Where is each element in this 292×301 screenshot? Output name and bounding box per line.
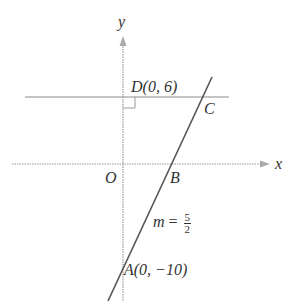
right-angle-marker	[123, 97, 135, 108]
y-axis-label: y	[118, 14, 125, 30]
point-d-text: D(0, 6)	[131, 78, 177, 95]
coordinate-diagram	[0, 0, 292, 301]
point-a-label: A(0, −10)	[124, 262, 187, 278]
slope-variable: m	[153, 213, 165, 230]
point-b-label: B	[170, 170, 180, 186]
point-a-text: A(0, −10)	[124, 261, 187, 278]
point-c-label: C	[204, 101, 215, 117]
x-axis-label: x	[275, 156, 282, 172]
x-axis-arrow-icon	[260, 161, 270, 168]
slope-denominator: 2	[184, 224, 192, 235]
origin-label: O	[105, 170, 117, 186]
y-axis-arrow-icon	[120, 36, 127, 46]
slope-annotation: m = 5 2	[153, 212, 191, 235]
point-d-label: D(0, 6)	[131, 79, 177, 95]
slope-equals: =	[169, 213, 178, 230]
slope-fraction: 5 2	[184, 212, 192, 235]
